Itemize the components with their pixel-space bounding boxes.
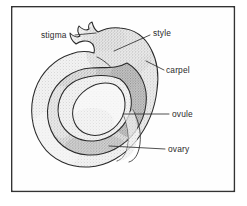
carpel-diagram-svg: stigma style carpel ovule ovary <box>0 0 247 206</box>
figure-root: stigma style carpel ovule ovary <box>0 0 247 206</box>
label-carpel: carpel <box>166 65 190 75</box>
label-style: style <box>153 28 171 38</box>
label-ovary: ovary <box>168 144 190 154</box>
label-ovule: ovule <box>172 109 193 119</box>
label-stigma: stigma <box>41 30 67 40</box>
